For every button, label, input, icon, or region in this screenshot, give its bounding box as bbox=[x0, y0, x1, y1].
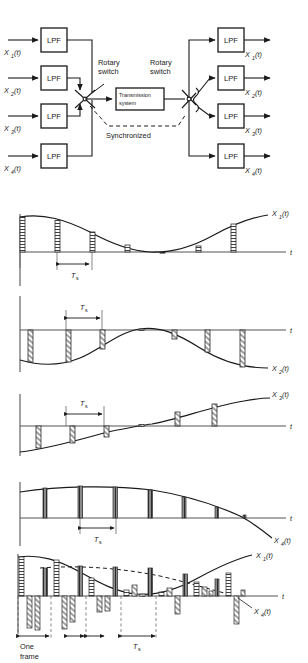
rx-rotary-switch[interactable] bbox=[182, 88, 199, 112]
signal-label-x4-mux: X 4 (t) bbox=[253, 607, 271, 618]
x4-leader-line bbox=[238, 598, 252, 608]
rx-switch-label-1: Rotary bbox=[150, 58, 172, 67]
input-2-arg: (t) bbox=[14, 86, 21, 95]
rx-commutator-wiring bbox=[189, 40, 215, 156]
sample-period-dimension: T s bbox=[122, 636, 155, 652]
signal-label-x1-mux: X 1 (t) bbox=[255, 551, 273, 562]
ts-sub: s bbox=[85, 307, 88, 313]
sample-pulses bbox=[28, 329, 245, 367]
output-1-arg: (t) bbox=[255, 50, 262, 59]
output-channel-1: LPF X 1 (t) bbox=[218, 28, 270, 61]
output-3-name: X bbox=[244, 126, 251, 135]
input-channel-3: LPF X 3 (t) bbox=[3, 104, 67, 135]
signal-label-x3: X 3 (t) bbox=[271, 390, 289, 401]
tdm-frame bbox=[226, 573, 245, 624]
axis-label-t: t bbox=[290, 326, 293, 335]
x3-arg: (t) bbox=[282, 390, 289, 399]
lpf-label: LPF bbox=[224, 152, 238, 161]
x2-name: X bbox=[271, 364, 278, 373]
tx-switch-label-1: Rotary bbox=[98, 58, 120, 67]
input-4-arg: (t) bbox=[14, 164, 21, 173]
x4-arg: (t) bbox=[264, 607, 271, 616]
waveform-panel-x1: t T s X 1 (t) bbox=[0, 198, 308, 290]
x1-name: X bbox=[271, 209, 278, 218]
ts-sub: s bbox=[99, 539, 102, 545]
axis-label-t: t bbox=[290, 248, 293, 257]
sample-pulses bbox=[20, 217, 236, 253]
output-channel-3: LPF X 3 (t) bbox=[218, 104, 270, 137]
input-channel-1: LPF X 1 (t) bbox=[3, 28, 67, 59]
output-channel-4: LPF X 4 (t) bbox=[218, 144, 270, 177]
axis-label-t: t bbox=[290, 422, 293, 431]
input-2-name: X bbox=[3, 86, 10, 95]
signal-curve bbox=[20, 487, 272, 538]
ts-sub: s bbox=[138, 646, 141, 652]
transmission-system-block: Transmission system bbox=[116, 88, 164, 110]
output-2-arg: (t) bbox=[255, 88, 262, 97]
input-1-name: X bbox=[3, 48, 10, 57]
output-4-arg: (t) bbox=[255, 166, 262, 175]
signal-curve bbox=[20, 398, 270, 452]
tdm-frame bbox=[194, 579, 219, 596]
frame-dimension: One frame bbox=[20, 636, 49, 661]
tx-switch-label-2: switch bbox=[98, 67, 119, 76]
input-1-arg: (t) bbox=[14, 48, 21, 57]
output-1-name: X bbox=[244, 50, 251, 59]
input-3-name: X bbox=[3, 124, 10, 133]
tx-commutator-wiring bbox=[67, 40, 92, 156]
transmission-line-1: Transmission bbox=[119, 92, 151, 98]
tdm-frame bbox=[19, 557, 48, 630]
ts-sub: s bbox=[76, 275, 79, 281]
figure-root: LPF X 1 (t) LPF X 2 (t) LPF X 3 (t) LPF … bbox=[0, 0, 308, 663]
lpf-label: LPF bbox=[47, 112, 61, 121]
output-2-name: X bbox=[244, 88, 251, 97]
waveform-panel-x3: t T s X 3 (t) bbox=[0, 378, 308, 462]
lpf-label: LPF bbox=[224, 74, 238, 83]
input-4-name: X bbox=[3, 164, 10, 173]
transmission-line-2: system bbox=[119, 100, 137, 106]
input-channel-2: LPF X 2 (t) bbox=[3, 66, 67, 97]
x4-name: X bbox=[253, 607, 260, 616]
input-3-arg: (t) bbox=[14, 124, 21, 133]
output-4-name: X bbox=[244, 166, 251, 175]
sample-period-dimension: T s bbox=[66, 399, 104, 426]
x4-arg: (t) bbox=[284, 536, 291, 545]
lpf-label: LPF bbox=[224, 112, 238, 121]
sample-period-dimension: T s bbox=[20, 252, 92, 281]
lpf-label: LPF bbox=[47, 74, 61, 83]
lpf-label: LPF bbox=[224, 36, 238, 45]
axis-label-t: t bbox=[290, 514, 293, 523]
block-diagram: LPF X 1 (t) LPF X 2 (t) LPF X 3 (t) LPF … bbox=[0, 0, 308, 196]
x3-name: X bbox=[271, 390, 278, 399]
input-channel-4: LPF X 4 (t) bbox=[3, 144, 67, 175]
x4-name: X bbox=[273, 536, 280, 545]
sync-label: Synchronized bbox=[106, 131, 151, 140]
x2-arg: (t) bbox=[282, 364, 289, 373]
signal-label-x1: X 1 (t) bbox=[271, 209, 289, 220]
tdm-frame bbox=[54, 560, 83, 629]
output-channel-2: LPF X 2 (t) bbox=[218, 66, 270, 99]
sample-pulses bbox=[43, 486, 246, 518]
signal-curve bbox=[20, 328, 268, 368]
lpf-label: LPF bbox=[47, 36, 61, 45]
output-3-arg: (t) bbox=[255, 126, 262, 135]
ts-sub: s bbox=[85, 403, 88, 409]
waveform-panel-x4: t T s X 4 (t) bbox=[0, 458, 308, 550]
frame-label-line1: One bbox=[20, 642, 34, 651]
x1-name: X bbox=[255, 551, 262, 560]
frame-label-line2: frame bbox=[20, 652, 39, 661]
axis-label-t: t bbox=[282, 592, 285, 601]
x1-arg: (t) bbox=[266, 551, 273, 560]
signal-label-x2: X 2 (t) bbox=[271, 364, 289, 375]
tdm-frame bbox=[89, 567, 118, 612]
x1-arg: (t) bbox=[282, 209, 289, 218]
rx-switch-label-2: switch bbox=[150, 67, 171, 76]
lpf-label: LPF bbox=[47, 152, 61, 161]
waveform-panel-multiplexed: t bbox=[0, 546, 308, 663]
sample-period-dimension: T s bbox=[80, 518, 116, 545]
sample-period-dimension: T s bbox=[66, 303, 102, 330]
tdm-frame bbox=[159, 574, 188, 614]
waveform-panel-x2: t T s X 2 (t) bbox=[0, 292, 308, 382]
